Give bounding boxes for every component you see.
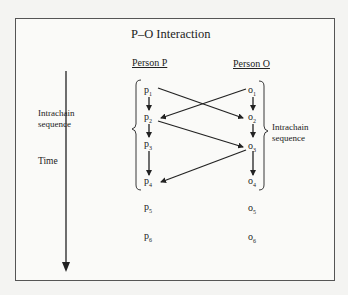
node-p4: p4 (144, 175, 152, 188)
node-o6: o6 (248, 231, 256, 244)
node-p5: p5 (144, 201, 152, 214)
node-o5: o5 (248, 202, 256, 215)
time-arrow-icon (62, 71, 70, 272)
node-o3: o3 (248, 140, 256, 153)
node-p6: p6 (144, 230, 152, 243)
interchain-arrows (158, 88, 246, 182)
node-p2: p2 (144, 111, 152, 124)
node-o2: o2 (248, 111, 256, 124)
node-o4: o4 (248, 175, 256, 188)
node-o1: o1 (248, 84, 256, 97)
node-p1: p1 (144, 84, 152, 97)
node-p3: p3 (144, 138, 152, 151)
left-brace-icon (132, 80, 141, 190)
right-brace-icon (259, 81, 268, 190)
diagram-arrows (0, 0, 348, 295)
